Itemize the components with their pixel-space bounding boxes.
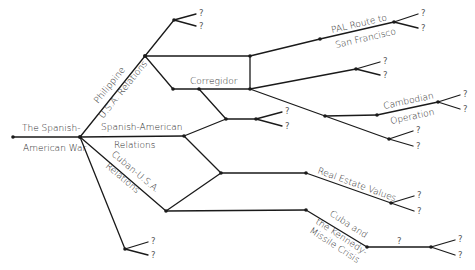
label-corregidor: Corregidor: [190, 76, 238, 86]
node-junction: [224, 117, 228, 121]
unknown-marker: ?: [458, 250, 463, 260]
unknown-marker: ?: [151, 236, 156, 246]
unknown-marker: ?: [421, 23, 426, 33]
node-cambodian-fork: [436, 100, 440, 104]
node-start: [11, 135, 15, 139]
node-pal-fork: [392, 20, 396, 24]
node-real-estate: [304, 171, 308, 175]
node-junction-fork: [254, 117, 258, 121]
unknown-marker: ?: [416, 125, 421, 135]
label-root-1: The Spanish-: [22, 123, 80, 133]
unknown-marker: ?: [463, 89, 468, 99]
label-root-2: American War: [23, 143, 87, 153]
node-pal: [318, 37, 322, 41]
unknown-marker: ?: [417, 206, 422, 216]
label-real-estate: Real Estate Values: [316, 165, 398, 203]
history-branch-diagram: The Spanish- American War Philippine U.S…: [0, 0, 475, 270]
unknown-outcomes: ? ? ? ? ? ? ? ? ? ? ? ? ? ? ? ? ? ? ?: [151, 8, 468, 260]
node-philippine: [143, 54, 147, 58]
node-lower-fork: [387, 137, 391, 141]
unknown-marker: ?: [285, 106, 290, 116]
node-cuba: [304, 208, 308, 212]
unknown-marker: ?: [397, 236, 402, 246]
node-cambodian: [375, 113, 379, 117]
node-real-estate-left: [219, 171, 223, 175]
unknown-marker: ?: [416, 141, 421, 151]
node-cuba-fork: [429, 245, 433, 249]
edges: [13, 14, 460, 255]
node-root: [78, 135, 82, 139]
unknown-marker: ?: [285, 121, 290, 131]
unknown-marker: ?: [383, 56, 388, 66]
node-bottom-fork: [123, 247, 127, 251]
unknown-marker: ?: [151, 250, 156, 260]
node-corregidor-left: [171, 87, 175, 91]
unknown-marker: ?: [458, 234, 463, 244]
unknown-marker: ?: [383, 70, 388, 80]
node-cambodian-split: [323, 114, 327, 118]
label-spanish-american-2: Relations: [114, 140, 156, 150]
node-box-bottom: [248, 87, 252, 91]
node-top-fork: [172, 18, 176, 22]
unknown-marker: ?: [199, 21, 204, 31]
node-mid-fork: [354, 67, 358, 71]
unknown-marker: ?: [199, 8, 204, 18]
node-spanish-american: [182, 134, 186, 138]
node-box-top: [248, 54, 252, 58]
unknown-marker: ?: [463, 104, 468, 114]
label-cambodian-2: Operation: [389, 107, 435, 126]
node-corregidor-mid: [197, 87, 201, 91]
labels: The Spanish- American War Philippine U.S…: [22, 12, 435, 265]
unknown-marker: ?: [421, 8, 426, 18]
unknown-marker: ?: [417, 190, 422, 200]
node-cuban: [164, 209, 168, 213]
label-spanish-american-1: Spanish-American: [101, 122, 182, 132]
